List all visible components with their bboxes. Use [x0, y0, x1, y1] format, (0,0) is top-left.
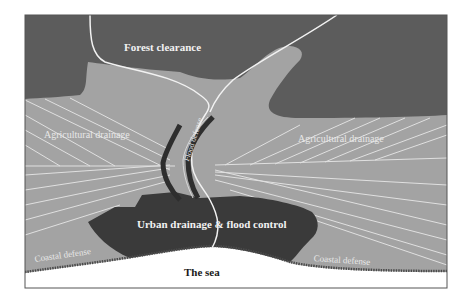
- label-agricultural-drainage-right: Agricultural drainage: [298, 134, 384, 144]
- land-use-diagram: Forest clearance Agricultural drainage A…: [0, 0, 469, 298]
- label-urban-drainage: Urban drainage & flood control: [137, 219, 287, 230]
- label-the-sea: The sea: [184, 267, 220, 278]
- label-agricultural-drainage-left: Agricultural drainage: [44, 130, 130, 140]
- label-forest-clearance: Forest clearance: [124, 42, 201, 53]
